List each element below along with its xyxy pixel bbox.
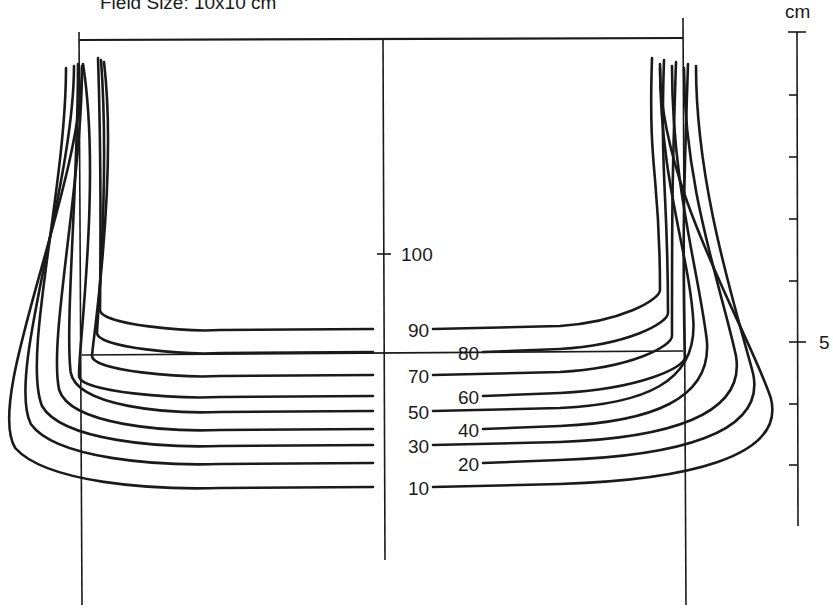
isodose-label-80: 80 [458,343,479,364]
isodose-curves: 908070605040302010 [9,58,772,499]
isodose-label-60: 60 [458,387,479,408]
central-axis-line [383,40,385,560]
isodose-label-40: 40 [458,420,479,441]
isodose-label-50: 50 [408,402,429,423]
isodose-label-10: 10 [408,478,429,499]
isodose-label-30: 30 [408,436,429,457]
isodose-curve-20 [25,66,754,464]
isodose-diagram: Field Size: 10x10 cm 100 908070605040302… [0,0,833,611]
isodose-curve-90 [98,58,660,330]
depth-scale: cm 5 [785,1,830,526]
isodose-curve-30 [37,68,737,446]
isodose-curve-50 [69,64,693,412]
isodose-label-70: 70 [408,366,429,387]
isodose-curve-40 [57,66,707,430]
isodose-label-90: 90 [408,320,429,341]
scale-unit-label: cm [785,1,810,22]
dmax-100-label: 100 [401,244,433,265]
scale-line [797,32,798,526]
scale-5cm-label: 5 [819,332,830,353]
isodose-curve-10 [9,68,772,488]
field-top-line [79,38,683,40]
isodose-label-20: 20 [458,454,479,475]
figure-title: Field Size: 10x10 cm [100,0,276,13]
